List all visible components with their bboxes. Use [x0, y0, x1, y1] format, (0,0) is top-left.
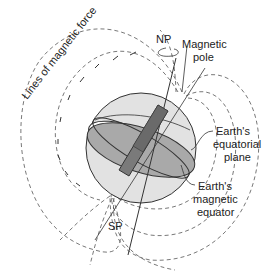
magnetic-pole-label-line1: Magnetic	[182, 38, 227, 50]
magnetic-pole-label-line2: pole	[193, 51, 214, 63]
north-pole-label: NP	[156, 33, 171, 45]
equatorial-plane-label-line1: Earth's	[216, 125, 250, 137]
rotation-arrow-icon	[158, 48, 178, 56]
magnetic-equator-label-line2: magnetic	[193, 193, 238, 205]
south-pole-label: SP	[108, 220, 123, 232]
magnetic-equator-label-line3: equator	[197, 206, 235, 218]
lines-of-force-label: Lines of magnetic force	[19, 4, 98, 101]
magnetic-pole-leader	[182, 46, 187, 92]
magnetic-equator-label-line1: Earth's	[198, 180, 232, 192]
equatorial-plane-label-line3: plane	[224, 151, 251, 163]
equatorial-plane-label-line2: equatorial	[213, 138, 261, 150]
earth-magnetic-field-diagram: Lines of magnetic force NP Magnetic pole…	[0, 0, 271, 276]
